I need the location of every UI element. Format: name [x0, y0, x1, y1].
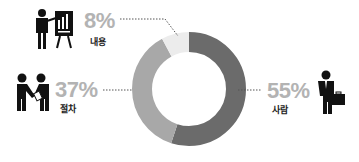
content-label: 내용	[90, 37, 106, 47]
content-percent: 8%	[84, 10, 115, 32]
handshake-icon	[14, 73, 52, 113]
people-label: 사람	[272, 105, 288, 115]
presenter-chart-icon	[34, 8, 76, 52]
people-percent: 55%	[267, 80, 310, 102]
process-percent: 37%	[55, 79, 98, 101]
process-label: 절차	[60, 104, 76, 114]
businessman-briefcase-icon	[316, 70, 346, 116]
leader-line-content	[120, 19, 178, 36]
